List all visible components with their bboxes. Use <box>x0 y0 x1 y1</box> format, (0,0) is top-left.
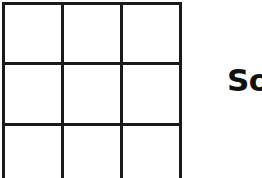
grid-line-horizontal-1 <box>2 62 182 65</box>
grid-line-horizontal-2 <box>2 123 182 126</box>
grid-line-horizontal-top <box>2 2 182 5</box>
three-by-three-grid <box>2 2 182 178</box>
grid-line-vertical-left <box>2 2 5 178</box>
grid-line-vertical-1 <box>61 2 64 178</box>
heading-text: So <box>227 60 262 100</box>
grid-line-vertical-right <box>179 2 182 178</box>
grid-line-vertical-2 <box>120 2 123 178</box>
